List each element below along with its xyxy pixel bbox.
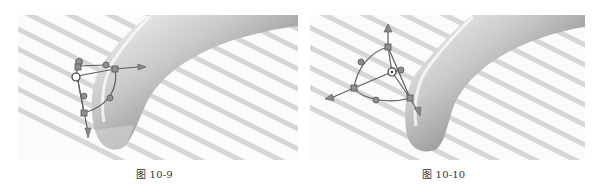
figure-caption: 图 10-10 — [422, 166, 465, 181]
figure-caption: 图 10-9 — [136, 166, 173, 181]
control-point[interactable] — [373, 97, 379, 103]
control-point[interactable] — [107, 95, 113, 101]
control-point-square[interactable] — [75, 64, 81, 70]
pivot-center-dot — [391, 71, 393, 73]
control-point-square[interactable] — [351, 85, 357, 91]
zebra-render-image — [0, 0, 300, 191]
control-point-square[interactable] — [385, 44, 391, 50]
control-point[interactable] — [103, 62, 109, 68]
pivot-origin-icon[interactable] — [72, 73, 80, 81]
control-point-square[interactable] — [112, 66, 118, 72]
figure-10-9: 图 10-9 — [0, 0, 300, 191]
control-point[interactable] — [81, 93, 87, 99]
control-point[interactable] — [398, 67, 404, 73]
control-point-square[interactable] — [407, 95, 413, 101]
control-point-square[interactable] — [81, 110, 87, 116]
zebra-render-image — [295, 0, 595, 191]
figure-10-10: 图 10-10 — [295, 0, 595, 191]
control-point[interactable] — [358, 59, 364, 65]
